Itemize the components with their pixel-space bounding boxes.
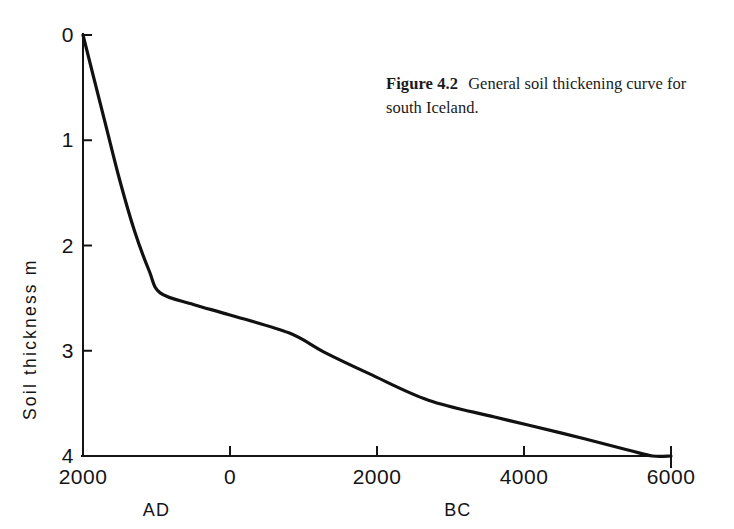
- x-era-label: AD: [143, 500, 170, 520]
- y-tick-label-group: 01234: [62, 23, 74, 467]
- x-tick-label: 2000: [353, 465, 402, 488]
- x-tick-group: [83, 446, 671, 456]
- x-tick-label: 6000: [647, 465, 696, 488]
- x-tick-label: 4000: [500, 465, 549, 488]
- axes-group: [81, 33, 671, 468]
- x-tick-label-group: 20000200040006000: [59, 465, 696, 488]
- y-tick-label: 4: [62, 444, 74, 467]
- x-tick-label: 2000: [59, 465, 108, 488]
- x-era-label: BC: [444, 500, 471, 520]
- x-tick-label: 0: [224, 465, 236, 488]
- y-tick-group: [83, 35, 92, 456]
- figure-page: Figure 4.2General soil thickening curve …: [0, 0, 734, 529]
- y-tick-label: 1: [62, 128, 74, 151]
- y-tick-label: 3: [62, 339, 74, 362]
- y-axis-title: Soil thickness m: [20, 258, 40, 420]
- y-tick-label: 0: [62, 23, 74, 46]
- soil-thickening-curve: [83, 35, 671, 456]
- y-tick-label: 2: [62, 234, 74, 257]
- era-label-group: ADBC: [143, 500, 472, 520]
- soil-thickening-chart: 01234 20000200040006000 ADBC Soil thickn…: [0, 0, 734, 529]
